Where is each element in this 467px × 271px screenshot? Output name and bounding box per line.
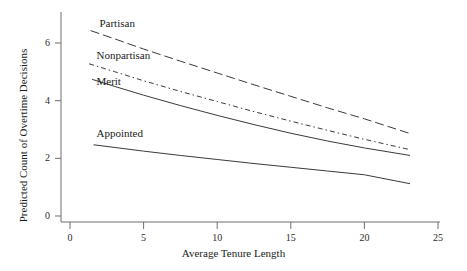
series-label-merit: Merit — [96, 76, 120, 87]
series-label-nonpartisan: Nonpartisan — [96, 50, 150, 61]
x-axis-tick-label: 20 — [349, 233, 379, 243]
y-axis-ticks — [55, 43, 61, 216]
y-axis-title: Predicted Count of Overtime Decisions — [18, 0, 34, 271]
x-axis-ticks — [70, 222, 438, 229]
x-axis-tick-label: 25 — [423, 233, 453, 243]
chart-figure: 0246 0510152025 PartisanNonpartisanMerit… — [0, 0, 467, 271]
x-axis-tick-label: 15 — [276, 233, 306, 243]
series-line-partisan — [91, 31, 410, 134]
series-line-merit — [92, 79, 410, 155]
plot-area — [0, 0, 467, 271]
x-axis-tick-label: 10 — [202, 233, 232, 243]
x-axis-tick-label: 0 — [55, 233, 85, 243]
x-axis-tick-label: 5 — [129, 233, 159, 243]
axes — [55, 12, 440, 229]
series-label-partisan: Partisan — [99, 18, 134, 29]
x-axis-title: Average Tenure Length — [0, 248, 467, 259]
series-label-appointed: Appointed — [96, 128, 142, 139]
series-line-appointed — [94, 145, 410, 184]
